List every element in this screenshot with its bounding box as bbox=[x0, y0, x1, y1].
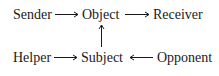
node-object: Object bbox=[82, 8, 119, 22]
arrow-subject-to-object bbox=[99, 25, 104, 47]
node-sender: Sender bbox=[13, 8, 52, 22]
arrow-object-to-receiver bbox=[125, 12, 149, 17]
arrow-helper-to-subject bbox=[54, 55, 77, 60]
node-helper: Helper bbox=[13, 51, 51, 65]
node-receiver: Receiver bbox=[153, 8, 203, 22]
node-opponent: Opponent bbox=[157, 51, 212, 65]
node-subject: Subject bbox=[81, 51, 123, 65]
arrow-sender-to-object bbox=[55, 12, 78, 17]
arrow-opponent-to-subject bbox=[130, 55, 153, 60]
